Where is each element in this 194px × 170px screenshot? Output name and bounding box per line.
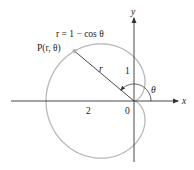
radius-line bbox=[74, 51, 134, 101]
theta-arc bbox=[121, 84, 151, 101]
point-p bbox=[72, 49, 76, 53]
radius-label: r bbox=[99, 64, 103, 74]
tick-label-origin: 0 bbox=[125, 106, 130, 116]
tick-label-x-two: 2 bbox=[86, 106, 91, 116]
point-label: P(r, θ) bbox=[37, 43, 61, 54]
angle-label: θ bbox=[151, 85, 156, 95]
y-axis-label: y bbox=[130, 7, 136, 17]
cardioid-diagram: r = 1 − cos θ P(r, θ) r 1 θ 2 0 x y bbox=[0, 0, 194, 170]
equation-label: r = 1 − cos θ bbox=[56, 29, 104, 39]
tick-label-y-one: 1 bbox=[125, 66, 130, 76]
x-axis-label: x bbox=[181, 96, 187, 106]
